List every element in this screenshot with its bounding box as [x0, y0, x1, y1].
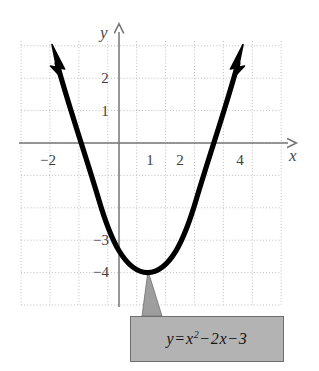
y-axis-label: y	[100, 24, 108, 41]
equation-variable: x	[186, 330, 194, 347]
y-tick-label-1: 1	[101, 104, 109, 119]
equation-linear-term: 2x	[211, 330, 227, 347]
y-tick-label-2: 2	[101, 71, 109, 86]
parabola-figure: y x 2 1 −3 −4 −2 1 2 4 y=x2−2x−3	[0, 0, 319, 371]
equation-minus-2: −	[227, 330, 239, 347]
y-tick-label-minus-3: −3	[93, 233, 109, 248]
equation-constant: 3	[239, 330, 248, 347]
x-axis-label: x	[289, 147, 297, 164]
x-tick-label-minus-2: −2	[40, 153, 56, 168]
equation-text: y=x2−2x−3	[167, 330, 248, 348]
x-tick-label-1: 1	[146, 153, 154, 168]
equation-callout-box: y=x2−2x−3	[130, 316, 284, 362]
y-tick-label-minus-4: −4	[93, 265, 109, 280]
callout-pointer	[142, 271, 162, 316]
x-tick-label-4: 4	[236, 153, 244, 168]
x-tick-label-2: 2	[176, 153, 184, 168]
equation-equals: =	[174, 330, 186, 347]
equation-minus-1: −	[199, 330, 211, 347]
